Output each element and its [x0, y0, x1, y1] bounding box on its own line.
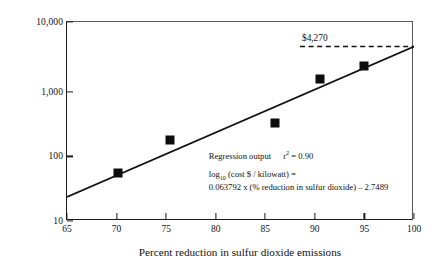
x-tick-label: 75 [161, 224, 171, 234]
r-squared-exponent: 2 [286, 150, 289, 156]
log-text: log [209, 169, 220, 179]
regression-output-annotation: Regression output r2 = 0.90 log10 (cost … [209, 149, 389, 193]
equation-lhs-rest: (cost $ / kilowatt) = [226, 169, 296, 179]
regression-heading: Regression output [209, 151, 271, 161]
data-point [315, 74, 324, 83]
data-point [271, 119, 280, 128]
x-tick-label: 70 [112, 224, 122, 234]
x-tick-label: 65 [62, 224, 72, 234]
y-tick-label: 1,000 [41, 87, 63, 97]
data-point [113, 168, 122, 177]
data-point [166, 136, 175, 145]
data-point [360, 61, 369, 70]
x-tick-label: 100 [407, 224, 421, 234]
x-tick-label: 85 [261, 224, 271, 234]
x-tick-label: 90 [310, 224, 320, 234]
regression-heading-line: Regression output r2 = 0.90 [209, 149, 389, 162]
chart-figure: Capital cost ($/kilowatt) 10 100 1,000 1… [0, 0, 440, 269]
regression-equation-rhs: 0.063792 x (% reduction in sulfur dioxid… [209, 182, 389, 193]
y-tick-label: 100 [48, 151, 63, 161]
x-tick-label: 95 [360, 224, 370, 234]
regression-equation-lhs: log10 (cost $ / kilowatt) = [209, 169, 389, 182]
x-tick-label: 80 [211, 224, 221, 234]
reference-line-label: $4,270 [302, 33, 328, 43]
y-tick-label: 10,000 [36, 17, 63, 27]
x-axis-title: Percent reduction in sulfur dioxide emis… [139, 246, 341, 258]
r-squared-value: = 0.90 [291, 151, 313, 161]
plot-area: 10 100 1,000 10,000 65 70 75 80 85 90 95… [66, 21, 413, 220]
